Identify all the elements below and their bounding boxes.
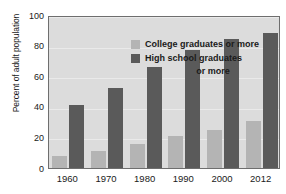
bar-chart: Percent of adult population 020406080100… (0, 0, 286, 194)
bar-group-1970 (91, 17, 123, 168)
x-tick-label-1960: 1960 (48, 173, 87, 184)
chart-legend: College graduates or more High school gr… (131, 39, 280, 77)
bar-1970-college (91, 151, 106, 168)
y-tick-label-60: 60 (16, 73, 44, 82)
legend-swatch-highschool-icon (131, 54, 140, 63)
legend-label-college: College graduates or more (145, 39, 259, 50)
x-tick-label-1970: 1970 (87, 173, 126, 184)
bar-1970-highschool (108, 88, 123, 168)
legend-entry-college: College graduates or more (131, 39, 280, 51)
bar-2012-college (246, 121, 261, 168)
y-tick-label-40: 40 (16, 103, 44, 112)
x-axis-tick-labels: 196019701980199020002012 (48, 173, 280, 187)
y-tick-label-0: 0 (16, 165, 44, 174)
bar-1990-college (168, 136, 183, 168)
bar-group-1960 (52, 17, 84, 168)
y-axis-tick-labels: 020406080100 (16, 10, 44, 174)
x-tick-label-2000: 2000 (203, 173, 242, 184)
bar-1960-highschool (69, 105, 84, 168)
x-tick-label-1990: 1990 (164, 173, 203, 184)
bar-1960-college (52, 156, 67, 168)
plot-area: College graduates or more High school gr… (48, 16, 280, 169)
legend-label-highschool-line2: or more (145, 66, 280, 77)
bar-1980-highschool (147, 67, 162, 168)
legend-swatch-college-icon (131, 40, 140, 49)
y-tick-label-80: 80 (16, 42, 44, 51)
bar-1980-college (130, 144, 145, 168)
y-tick-label-100: 100 (16, 12, 44, 21)
legend-entry-highschool: High school graduates (131, 53, 280, 65)
bar-2000-college (207, 130, 222, 168)
x-tick-label-2012: 2012 (241, 173, 280, 184)
x-tick-label-1980: 1980 (125, 173, 164, 184)
y-tick-label-20: 20 (16, 134, 44, 143)
legend-label-highschool: High school graduates (145, 53, 242, 64)
